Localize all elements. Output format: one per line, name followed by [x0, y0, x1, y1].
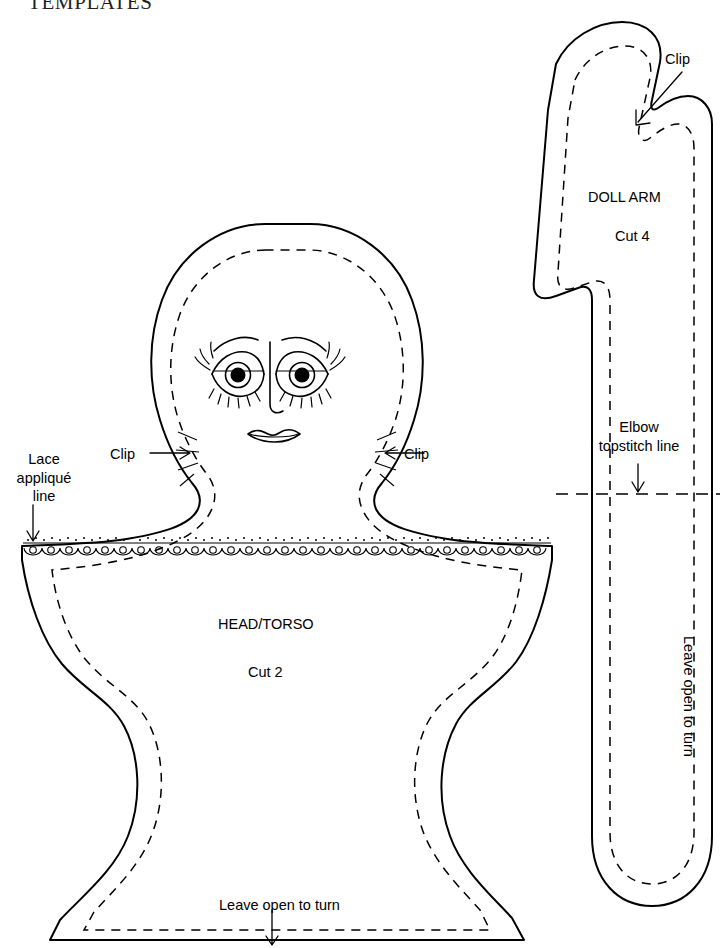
elbow-arrow-icon	[632, 464, 644, 492]
head-torso-name-label: HEAD/TORSO	[218, 615, 314, 634]
doll-arm-seam-line	[558, 46, 694, 884]
eyebrow-left-icon	[214, 337, 258, 351]
eyebrow-right-icon	[282, 337, 326, 351]
elbow-label-line-2: topstitch line	[591, 437, 687, 456]
head-torso-cut-line	[22, 224, 552, 940]
lace-leader-arrow-icon	[27, 505, 39, 541]
elbow-topstitch-label: Elbow topstitch line	[591, 418, 687, 455]
eye-right-icon	[276, 342, 345, 408]
clip-label-right: Clip	[404, 445, 429, 464]
doll-arm-cut-line	[534, 22, 712, 906]
elbow-label-line-1: Elbow	[591, 418, 687, 437]
doll-arm-name-label: DOLL ARM	[588, 188, 661, 207]
clip-label-left: Clip	[110, 445, 135, 464]
lace-applique-label: Lace appliqué line	[8, 450, 80, 506]
head-torso-cut-label: Cut 2	[248, 663, 283, 682]
lace-label-line-3: line	[8, 487, 80, 506]
eye-left-icon	[195, 342, 264, 408]
lace-applique-trim	[23, 537, 551, 555]
arm-clip-label: Clip	[665, 50, 690, 69]
doll-face	[195, 337, 345, 442]
head-torso-seam-line	[52, 250, 522, 930]
lace-label-line-1: Lace	[8, 450, 80, 469]
lace-label-line-2: appliqué	[8, 469, 80, 488]
head-torso-piece	[22, 224, 552, 945]
doll-arm-piece	[534, 22, 720, 906]
doll-arm-cut-label: Cut 4	[615, 227, 650, 246]
pattern-sheet: TEMPLATES	[0, 0, 720, 948]
lips-icon	[248, 430, 300, 442]
bottom-open-arrow-icon	[266, 910, 278, 945]
head-torso-leave-open-label: Leave open to turn	[219, 896, 340, 915]
doll-arm-leave-open-label: Leave open to turn	[681, 636, 697, 757]
pattern-drawing	[0, 0, 720, 948]
